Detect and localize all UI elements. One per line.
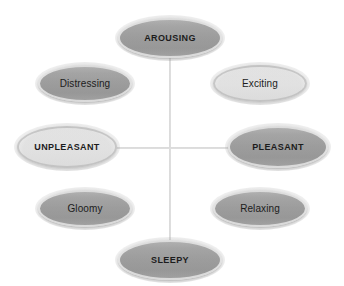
node-exciting[interactable]: Exciting bbox=[213, 65, 307, 102]
node-gloomy-label: Gloomy bbox=[67, 204, 102, 214]
node-distressing[interactable]: Distressing bbox=[38, 65, 132, 102]
node-distressing-label: Distressing bbox=[60, 79, 111, 89]
node-unpleasant[interactable]: UNPLEASANT bbox=[17, 126, 117, 168]
node-arousing-label: AROUSING bbox=[144, 34, 196, 43]
node-pleasant[interactable]: PLEASANT bbox=[228, 126, 328, 168]
node-gloomy[interactable]: Gloomy bbox=[38, 190, 132, 227]
circumplex-affect-diagram: AROUSING Distressing Exciting UNPLEASANT… bbox=[0, 0, 344, 286]
node-relaxing-label: Relaxing bbox=[240, 204, 280, 214]
node-unpleasant-label: UNPLEASANT bbox=[34, 143, 100, 152]
node-arousing[interactable]: AROUSING bbox=[118, 18, 222, 58]
horizontal-axis-line bbox=[114, 147, 229, 149]
node-relaxing[interactable]: Relaxing bbox=[213, 190, 307, 227]
node-sleepy[interactable]: SLEEPY bbox=[118, 240, 222, 280]
node-pleasant-label: PLEASANT bbox=[252, 143, 304, 152]
vertical-axis-line bbox=[169, 55, 171, 243]
node-exciting-label: Exciting bbox=[242, 79, 278, 89]
node-sleepy-label: SLEEPY bbox=[151, 256, 189, 265]
